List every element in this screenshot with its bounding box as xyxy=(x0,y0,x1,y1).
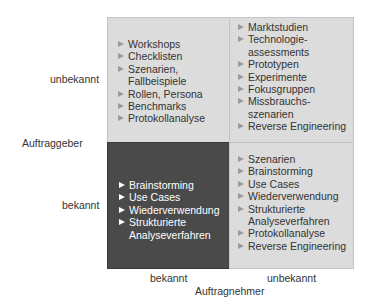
list-item: Wiederverwendung xyxy=(119,204,219,216)
list-item: Technologie-assessments xyxy=(238,33,346,58)
list-item-label: Fokusgruppen xyxy=(248,83,315,95)
triangle-bullet-icon xyxy=(238,230,244,236)
list-item: Reverse Engineering xyxy=(238,240,346,252)
triangle-bullet-icon xyxy=(238,168,244,174)
triangle-bullet-icon xyxy=(238,181,244,187)
triangle-bullet-icon xyxy=(119,207,125,213)
triangle-bullet-icon xyxy=(238,98,244,104)
triangle-bullet-icon xyxy=(238,61,244,67)
technique-list: BrainstormingUse CasesWiederverwendungSt… xyxy=(119,179,219,241)
list-item: Reverse Engineering xyxy=(238,120,346,132)
list-item: Prototypen xyxy=(238,58,346,70)
triangle-bullet-icon xyxy=(118,66,124,72)
technique-list: SzenarienBrainstormingUse CasesWiederver… xyxy=(238,153,346,252)
list-item: Brainstorming xyxy=(238,165,346,177)
list-item: Checklisten xyxy=(118,50,205,62)
list-item: Missbrauchs-szenarien xyxy=(238,95,346,120)
list-item: Benchmarks xyxy=(118,100,205,112)
list-item-label: Use Cases xyxy=(129,191,180,203)
list-item: Brainstorming xyxy=(119,179,219,191)
list-item: Szenarien,Fallbeispiele xyxy=(118,63,205,88)
technique-list: WorkshopsChecklistenSzenarien,Fallbeispi… xyxy=(118,38,205,125)
y-axis-label-top: unbekannt xyxy=(50,73,99,85)
triangle-bullet-icon xyxy=(238,86,244,92)
triangle-bullet-icon xyxy=(238,156,244,162)
list-item-label: Missbrauchs-szenarien xyxy=(248,95,310,119)
triangle-bullet-icon xyxy=(118,53,124,59)
triangle-bullet-icon xyxy=(238,24,244,30)
list-item-label: Use Cases xyxy=(248,178,299,190)
list-item-label: Rollen, Persona xyxy=(128,88,203,100)
list-item-label: Marktstudien xyxy=(248,21,308,33)
quadrant-bottom-right: SzenarienBrainstormingUse CasesWiederver… xyxy=(229,142,354,269)
x-axis-label-right: unbekannt xyxy=(267,272,316,284)
triangle-bullet-icon xyxy=(119,194,125,200)
list-item: Workshops xyxy=(118,38,205,50)
triangle-bullet-icon xyxy=(118,115,124,121)
list-item: Experimente xyxy=(238,71,346,83)
list-item: Protokollanalyse xyxy=(238,227,346,239)
list-item-label: Reverse Engineering xyxy=(248,120,346,132)
list-item-label: Checklisten xyxy=(128,50,182,62)
list-item: StrukturierteAnalyseverfahren xyxy=(119,216,219,241)
list-item-label: Prototypen xyxy=(248,58,299,70)
triangle-bullet-icon xyxy=(238,36,244,42)
technique-list: MarktstudienTechnologie-assessmentsProto… xyxy=(238,21,346,133)
list-item-label: Brainstorming xyxy=(248,165,313,177)
list-item: Fokusgruppen xyxy=(238,83,346,95)
list-item: Szenarien xyxy=(238,153,346,165)
list-item-label: StrukturierteAnalyseverfahren xyxy=(248,203,330,227)
list-item-label: Brainstorming xyxy=(129,179,194,191)
quadrant-top-right: MarktstudienTechnologie-assessmentsProto… xyxy=(229,17,354,143)
triangle-bullet-icon xyxy=(238,243,244,249)
list-item-label: Technologie-assessments xyxy=(248,33,309,57)
triangle-bullet-icon xyxy=(119,219,125,225)
list-item-label: Reverse Engineering xyxy=(248,240,346,252)
list-item-label: Experimente xyxy=(248,71,307,83)
list-item-label: Protokollanalyse xyxy=(128,112,205,124)
list-item-label: StrukturierteAnalyseverfahren xyxy=(129,216,211,240)
list-item-label: Wiederverwendung xyxy=(129,204,219,216)
list-item-label: Protokollanalyse xyxy=(248,227,325,239)
triangle-bullet-icon xyxy=(238,206,244,212)
triangle-bullet-icon xyxy=(119,182,125,188)
list-item: StrukturierteAnalyseverfahren xyxy=(238,203,346,228)
list-item: Protokollanalyse xyxy=(118,112,205,124)
list-item: Wiederverwendung xyxy=(238,190,346,202)
list-item: Rollen, Persona xyxy=(118,88,205,100)
y-axis-title: Auftraggeber xyxy=(22,137,83,149)
list-item-label: Wiederverwendung xyxy=(248,190,338,202)
list-item-label: Szenarien,Fallbeispiele xyxy=(128,63,186,87)
triangle-bullet-icon xyxy=(238,74,244,80)
triangle-bullet-icon xyxy=(238,123,244,129)
list-item-label: Workshops xyxy=(128,38,180,50)
list-item-label: Szenarien xyxy=(248,153,295,165)
quadrant-top-left: WorkshopsChecklistenSzenarien,Fallbeispi… xyxy=(107,17,230,143)
triangle-bullet-icon xyxy=(118,103,124,109)
list-item-label: Benchmarks xyxy=(128,100,186,112)
list-item: Use Cases xyxy=(119,191,219,203)
list-item: Marktstudien xyxy=(238,21,346,33)
quadrant-bottom-left: BrainstormingUse CasesWiederverwendungSt… xyxy=(107,142,230,269)
y-axis-label-bottom: bekannt xyxy=(62,199,99,211)
list-item: Use Cases xyxy=(238,178,346,190)
x-axis-title: Auftragnehmer xyxy=(195,285,264,297)
x-axis-label-left: bekannt xyxy=(150,272,187,284)
triangle-bullet-icon xyxy=(118,41,124,47)
triangle-bullet-icon xyxy=(238,193,244,199)
triangle-bullet-icon xyxy=(118,91,124,97)
